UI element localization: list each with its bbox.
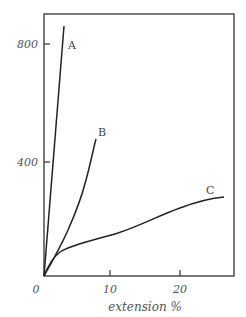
y-tick-label-800: 800 — [17, 38, 38, 51]
chart: 800 400 0 10 20 extension % A B C — [0, 0, 246, 317]
curve-label-a: A — [67, 39, 77, 52]
x-tick-label-10: 10 — [103, 283, 117, 296]
x-axis-title: extension % — [108, 300, 182, 314]
curve-label-b: B — [98, 126, 106, 139]
curve-b — [44, 139, 96, 276]
curve-c — [44, 197, 224, 276]
y-tick-label-400: 400 — [16, 156, 38, 169]
x-tick-label-20: 20 — [172, 283, 187, 296]
plot-frame — [44, 14, 234, 276]
curve-label-c: C — [206, 184, 214, 197]
curve-a — [44, 26, 64, 276]
x-tick-label-0: 0 — [33, 283, 40, 296]
